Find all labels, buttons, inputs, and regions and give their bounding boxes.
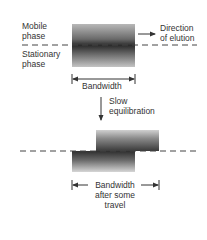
- slow-equilibration-line1: Slow: [109, 96, 155, 106]
- stationary-phase-label-line2: phase: [22, 59, 60, 69]
- direction-of-elution-label: Direction of elution: [160, 23, 195, 43]
- stationary-phase-label-line1: Stationary: [22, 49, 60, 59]
- direction-label-line1: Direction: [160, 23, 195, 33]
- slow-equilibration-label: Slow equilibration: [109, 96, 155, 116]
- bandwidth-after-travel-line3: travel: [88, 200, 142, 210]
- bandwidth-after-travel-line1: Bandwidth: [88, 180, 142, 190]
- mobile-phase-label-line2: phase: [22, 31, 47, 41]
- bandwidth-after-travel-line2: after some: [88, 190, 142, 200]
- bandwidth-label-top: Bandwidth: [82, 81, 122, 91]
- mobile-phase-label: Mobile phase: [22, 21, 47, 41]
- stationary-phase-label: Stationary phase: [22, 49, 60, 69]
- direction-label-line2: of elution: [160, 33, 195, 43]
- slow-equilibration-line2: equilibration: [109, 106, 155, 116]
- mobile-phase-label-line1: Mobile: [22, 21, 47, 31]
- bandwidth-after-travel-label: Bandwidth after some travel: [88, 180, 142, 210]
